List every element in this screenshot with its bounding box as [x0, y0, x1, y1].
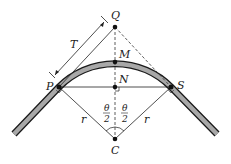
angle-arc-right [115, 127, 124, 131]
point-m [113, 60, 118, 65]
dimension-tick-q [101, 16, 108, 23]
angle-left-denominator: 2 [103, 114, 110, 124]
dimension-tick-p [49, 72, 55, 78]
curve-diagram: Q M N P S C T r r θ 2 θ 2 [0, 0, 231, 164]
point-p [57, 85, 62, 90]
point-q [113, 25, 118, 30]
tangent-pq [59, 27, 115, 87]
label-r-right: r [144, 113, 150, 126]
road-edge [14, 64, 217, 134]
label-c: C [111, 144, 120, 157]
angle-right-denominator: 2 [121, 114, 128, 124]
angle-arc-left [106, 127, 115, 131]
label-q: Q [111, 9, 120, 22]
point-n [113, 85, 118, 90]
angle-right-numerator: θ [122, 103, 128, 113]
label-r-left: r [81, 113, 87, 126]
label-t: T [70, 38, 79, 51]
label-n: N [118, 73, 129, 86]
label-m: M [118, 48, 131, 61]
label-s: S [177, 79, 185, 92]
angle-left-numerator: θ [104, 103, 110, 113]
label-p: P [45, 80, 54, 93]
point-s [169, 85, 174, 90]
point-c [113, 137, 118, 142]
